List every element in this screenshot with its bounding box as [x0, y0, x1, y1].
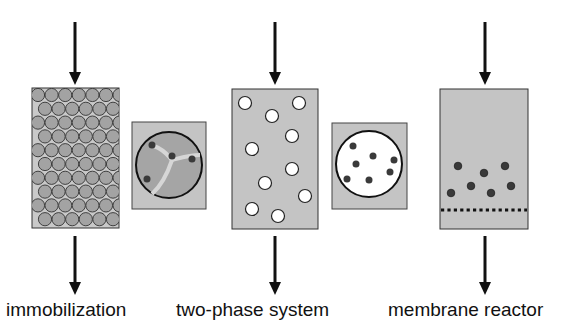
- inlet-arrow-icon: [479, 22, 491, 85]
- packed-bed-reactor-icon: [31, 88, 133, 228]
- outlet-arrow-icon: [479, 236, 491, 295]
- inlet-arrow-icon: [269, 22, 281, 85]
- membrane-reactor-label: membrane reactor: [388, 300, 543, 319]
- immobilization-panel: [31, 22, 206, 295]
- two-phase-system-label: two-phase system: [176, 300, 329, 319]
- droplet-with-enzymes-icon: [332, 123, 407, 209]
- inlet-arrow-icon: [69, 22, 81, 85]
- outlet-arrow-icon: [69, 236, 81, 295]
- outlet-arrow-icon: [269, 236, 281, 295]
- membrane-reactor-icon: [440, 89, 528, 229]
- membrane-panel: [440, 22, 528, 295]
- immobilization-label: immobilization: [6, 300, 126, 319]
- reactor-diagram: [0, 0, 571, 334]
- droplet-reactor-icon: [232, 89, 318, 229]
- porous-bead-icon: [132, 122, 206, 209]
- two-phase-panel: [232, 22, 407, 295]
